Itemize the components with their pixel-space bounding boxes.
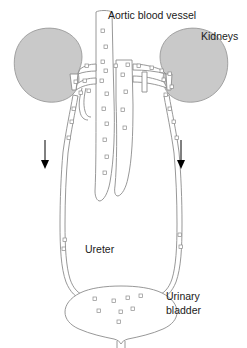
urinary-system-diagram: Aortic blood vessel Kidneys Ureter Urina… (0, 0, 247, 348)
label-urinary-bladder-line1: Urinary (166, 290, 201, 302)
kidney-left-shape (14, 28, 82, 102)
renal-vessel-stub-midright (142, 72, 147, 92)
label-urinary-bladder-line2: bladder (166, 304, 202, 316)
label-kidneys: Kidneys (201, 30, 238, 42)
label-aortic-blood-vessel: Aortic blood vessel (108, 9, 196, 21)
anatomy-illustration: Aortic blood vessel Kidneys Ureter Urina… (0, 0, 247, 348)
label-ureter: Ureter (85, 243, 115, 255)
